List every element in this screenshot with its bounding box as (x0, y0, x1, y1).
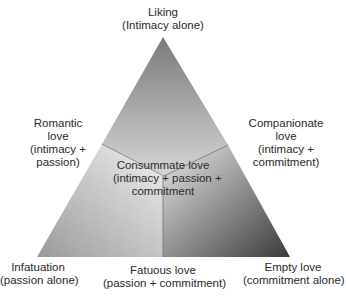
romantic-line1: Romantic (18, 117, 98, 130)
romantic-line4: passion) (18, 156, 98, 169)
consummate-line1: Consummate love (113, 159, 213, 172)
infatuation-title: Infatuation (0, 261, 76, 274)
companionate-line2: love (236, 130, 336, 143)
label-infatuation: Infatuation (passion alone) (0, 261, 76, 287)
consummate-line2: (intimacy + passion + (113, 172, 213, 185)
empty-love-title: Empty love (243, 261, 343, 274)
label-liking-title: Liking (113, 6, 213, 19)
label-companionate-love: Companionate love (intimacy + commitment… (236, 117, 336, 169)
companionate-line1: Companionate (236, 117, 336, 130)
label-romantic-love: Romantic love (intimacy + passion) (18, 117, 98, 169)
romantic-line2: love (18, 130, 98, 143)
label-empty-love: Empty love (commitment alone) (243, 261, 343, 287)
fatuous-title: Fatuous love (103, 264, 223, 277)
infatuation-subtitle: (passion alone) (0, 274, 76, 287)
label-consummate-love: Consummate love (intimacy + passion + co… (113, 159, 213, 198)
fatuous-subtitle: (passion + commitment) (103, 277, 223, 290)
consummate-line3: commitment (113, 185, 213, 198)
romantic-line3: (intimacy + (18, 143, 98, 156)
label-fatuous-love: Fatuous love (passion + commitment) (103, 264, 223, 290)
label-liking-subtitle: (Intimacy alone) (113, 19, 213, 32)
companionate-line3: (intimacy + (236, 143, 336, 156)
label-liking: Liking (Intimacy alone) (113, 6, 213, 32)
companionate-line4: commitment) (236, 156, 336, 169)
empty-love-subtitle: (commitment alone) (243, 274, 343, 287)
